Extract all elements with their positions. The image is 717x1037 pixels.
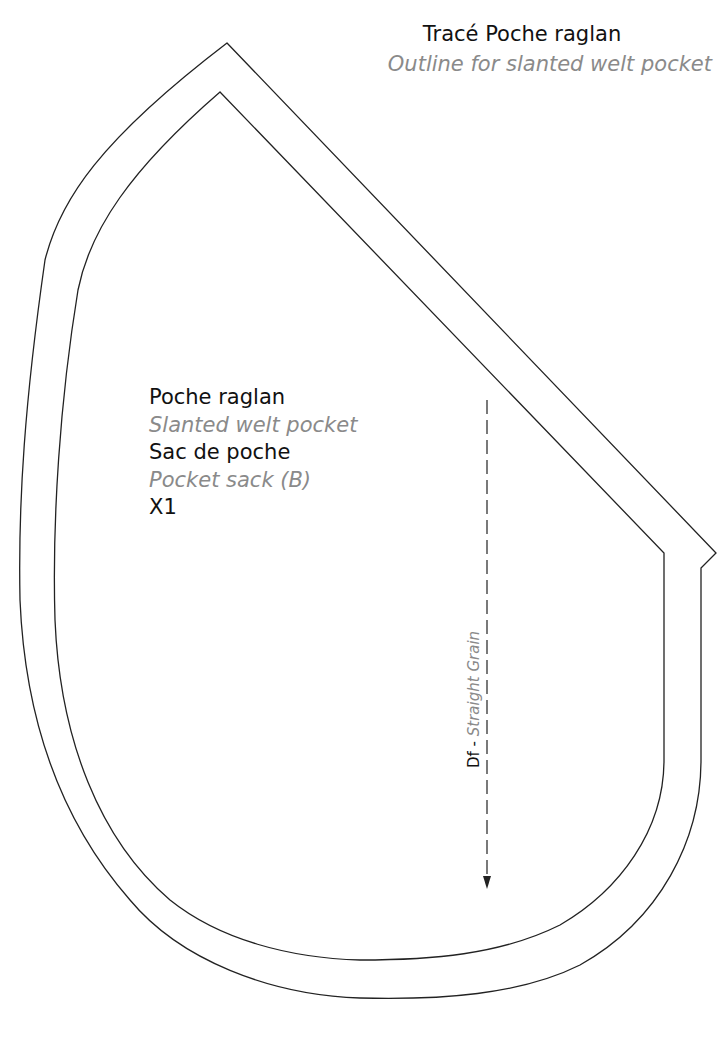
piece-part-french: Sac de poche [149,439,357,467]
grain-label-french: Df [465,751,483,768]
grain-line-label: Df - Straight Grain [465,631,483,768]
grain-label-english: Straight Grain [465,631,483,736]
piece-part-english: Pocket sack (B) [149,467,357,495]
title-english: Outline for slanted welt pocket [388,50,712,78]
grain-label-separator: - [465,736,483,751]
grain-arrow-icon [483,876,491,889]
outer-cutting-line [20,43,716,998]
piece-name-english: Slanted welt pocket [149,412,357,440]
title-french: Tracé Poche raglan [297,20,717,48]
piece-quantity: X1 [149,494,357,522]
piece-label-block: Poche raglan Slanted welt pocket Sac de … [149,384,357,522]
pattern-drawing [0,0,717,1037]
piece-name-french: Poche raglan [149,384,357,412]
inner-seam-line [54,92,664,960]
